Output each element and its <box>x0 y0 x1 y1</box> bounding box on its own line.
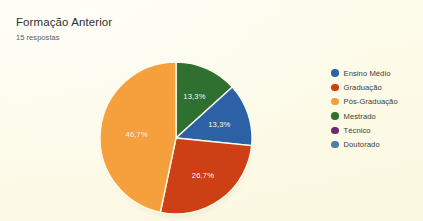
page-title: Formação Anterior <box>16 15 256 29</box>
legend-item[interactable]: Ensino Médio <box>331 66 398 80</box>
legend-item-label: Ensino Médio <box>344 69 391 78</box>
chart-screenshot: Formação Anterior 15 respostas 13,3%13,3… <box>0 0 423 221</box>
chart-legend: Ensino MédioGraduaçãoPós-GraduaçãoMestra… <box>331 66 398 152</box>
pie-slice-group <box>100 62 252 214</box>
legend-item-label: Graduação <box>344 83 382 92</box>
legend-item[interactable]: Doutorado <box>331 137 398 151</box>
legend-item-label: Doutorado <box>344 140 380 149</box>
response-count-label: 15 respostas <box>16 32 256 43</box>
legend-item-label: Mestrado <box>344 112 376 121</box>
chart-header: Formação Anterior 15 respostas <box>16 15 256 43</box>
legend-color-dot-icon <box>331 69 339 77</box>
legend-item[interactable]: Mestrado <box>331 109 398 123</box>
legend-color-dot-icon <box>331 98 339 106</box>
legend-color-dot-icon <box>331 112 339 120</box>
pie-slice-label: 26,7% <box>192 170 214 179</box>
pie-slice-label: 13,3% <box>183 92 205 101</box>
legend-color-dot-icon <box>331 127 339 135</box>
legend-item[interactable]: Pós-Graduação <box>331 95 398 109</box>
legend-item-label: Pós-Graduação <box>344 97 398 106</box>
legend-color-dot-icon <box>331 141 339 149</box>
legend-color-dot-icon <box>331 84 339 92</box>
pie-chart: 13,3%13,3%26,7%46,7% <box>97 59 255 217</box>
legend-item[interactable]: Técnico <box>331 123 398 137</box>
legend-item[interactable]: Graduação <box>331 80 398 94</box>
pie-svg <box>99 61 253 215</box>
legend-item-label: Técnico <box>344 126 371 135</box>
pie-slice-label: 13,3% <box>208 119 230 128</box>
pie-slice-label: 46,7% <box>126 129 148 138</box>
